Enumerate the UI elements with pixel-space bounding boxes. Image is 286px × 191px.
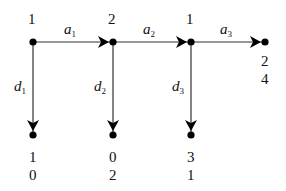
player-label-node-1: 1 [28,11,36,27]
edge-label-d2: d2 [94,78,106,96]
edge-label-a2: a2 [143,21,155,39]
payoff-t4-player2: 4 [261,71,269,87]
edge-label-a3: a3 [220,21,233,39]
payoff-t2-player1: 0 [109,149,117,165]
terminal-node-3 [187,131,194,138]
player-label-node-2: 2 [108,11,116,27]
edge-label-d3: d3 [172,78,185,96]
edge-label-a1: a1 [64,21,76,39]
terminal-node-2 [109,131,116,138]
terminal-node-1 [29,131,36,138]
payoff-t1-player2: 0 [29,167,37,183]
decision-node-3 [187,38,194,45]
decision-node-2 [109,38,116,45]
payoff-t3-player2: 1 [187,167,195,183]
game-tree-diagram: 1 2 1 a1 a2 a3 d1 d2 d3 2 4 1 0 0 2 3 1 [0,0,286,191]
edge-label-d1: d1 [14,78,26,96]
payoff-t1-player1: 1 [29,149,37,165]
decision-node-1 [29,38,36,45]
terminal-node-4 [261,38,268,45]
payoff-t3-player1: 3 [187,149,195,165]
payoff-t2-player2: 2 [109,167,117,183]
player-label-node-3: 1 [186,11,194,27]
payoff-t4-player1: 2 [261,53,269,69]
